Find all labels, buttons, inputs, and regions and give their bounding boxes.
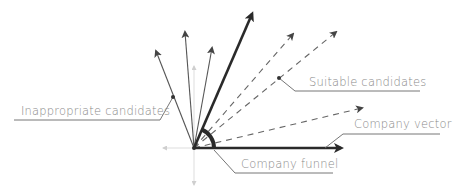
company-funnel-label: Company funnel bbox=[241, 157, 338, 171]
suitable-vector-2 bbox=[194, 32, 336, 148]
suitable-dot bbox=[277, 76, 281, 80]
suitable-vector-1 bbox=[194, 34, 293, 148]
suitable-candidates-label: Suitable candidates bbox=[309, 75, 426, 89]
company-vector-leader bbox=[325, 134, 440, 148]
origin-point bbox=[192, 146, 196, 150]
inappropriate-vector-2 bbox=[185, 32, 194, 148]
company-vector-label: Company vector bbox=[354, 117, 452, 131]
funnel-angle-arc bbox=[202, 130, 214, 148]
inappropriate-vector-1 bbox=[156, 51, 194, 148]
vector-diagram bbox=[0, 0, 458, 196]
suitable-vector-3 bbox=[194, 108, 362, 148]
company-vector-arrow bbox=[194, 14, 252, 148]
inappropriate-dot bbox=[171, 95, 175, 99]
inappropriate-candidates-label: Inappropriate candidates bbox=[21, 104, 170, 118]
